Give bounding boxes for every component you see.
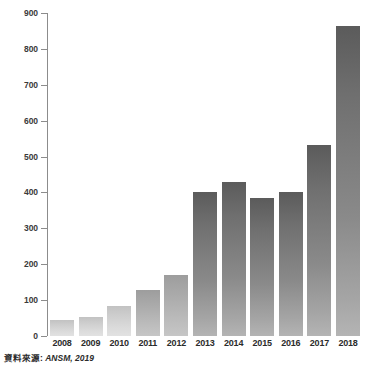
source-prefix: 資料來源:	[4, 353, 43, 363]
bar-2018	[336, 26, 360, 336]
bars-layer	[0, 0, 366, 370]
x-axis-label-2014: 2014	[219, 339, 249, 348]
x-axis-label-2016: 2016	[276, 339, 306, 348]
bar-2013	[193, 192, 217, 336]
bar-2009	[79, 317, 103, 336]
bar-2012	[164, 275, 188, 336]
source-value: ANSM, 2019	[45, 353, 94, 363]
bar-2014	[222, 182, 246, 336]
x-axis-label-2010: 2010	[104, 339, 134, 348]
bar-2008	[50, 320, 74, 336]
bar-2011	[136, 290, 160, 336]
x-axis-label-2013: 2013	[190, 339, 220, 348]
bar-2015	[250, 198, 274, 336]
x-axis-label-2018: 2018	[333, 339, 363, 348]
x-axis-label-2012: 2012	[161, 339, 191, 348]
x-axis-label-2017: 2017	[304, 339, 334, 348]
plot-area: 0100200300400500600700800900 20082009201…	[0, 0, 366, 370]
bar-2010	[107, 306, 131, 337]
x-axis-label-2015: 2015	[247, 339, 277, 348]
source-note: 資料來源: ANSM, 2019	[4, 353, 94, 363]
x-axis-label-2008: 2008	[47, 339, 77, 348]
bar-2016	[279, 192, 303, 336]
x-axis-label-2011: 2011	[133, 339, 163, 348]
bar-chart: 0100200300400500600700800900 20082009201…	[0, 0, 366, 370]
bar-2017	[307, 145, 331, 336]
x-axis-label-2009: 2009	[76, 339, 106, 348]
